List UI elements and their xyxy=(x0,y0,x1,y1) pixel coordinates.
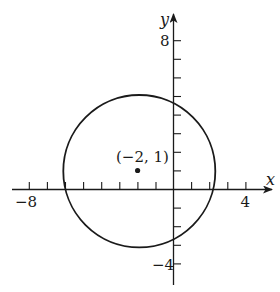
x-tick-label-max: 4 xyxy=(241,193,251,211)
x-tick-label-min: −8 xyxy=(15,193,37,211)
y-tick-label-max: 8 xyxy=(160,32,170,50)
coordinate-plane: (−2, 1) −8 4 8 −4 x y xyxy=(0,0,280,292)
x-axis-label: x xyxy=(266,170,275,189)
y-tick-label-min: −4 xyxy=(152,256,174,274)
center-point xyxy=(135,168,140,173)
y-axis-label: y xyxy=(159,10,170,29)
center-point-label: (−2, 1) xyxy=(116,148,169,166)
y-ticks xyxy=(174,41,182,264)
